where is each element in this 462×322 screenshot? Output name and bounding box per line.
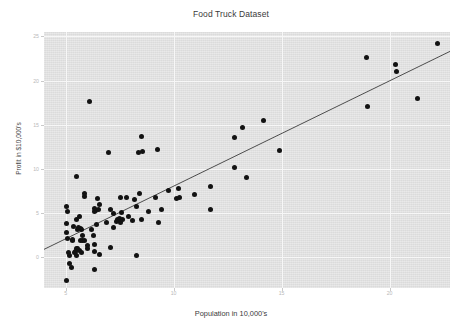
scatter-point (91, 233, 96, 238)
scatter-point (176, 186, 181, 191)
scatter-point (120, 217, 125, 222)
y-tick-label: 25 (26, 33, 39, 39)
scatter-point (74, 174, 79, 179)
gridline-y (44, 257, 450, 258)
scatter-point (415, 96, 420, 101)
scatter-point (140, 149, 145, 154)
scatter-point (139, 217, 144, 222)
y-tick-label: 0 (26, 254, 39, 260)
scatter-point (97, 252, 102, 257)
gridline-y (44, 81, 450, 82)
scatter-point (156, 220, 161, 225)
y-tick-label: 15 (26, 122, 39, 128)
scatter-point (97, 202, 102, 207)
scatter-point (111, 211, 116, 216)
scatter-point (111, 225, 116, 230)
scatter-point (177, 195, 182, 200)
scatter-point (146, 209, 151, 214)
gridline-x (282, 32, 283, 288)
scatter-point (104, 220, 109, 225)
gridline-x (390, 32, 391, 288)
scatter-point (87, 99, 92, 104)
scatter-point (130, 218, 135, 223)
x-axis-label: Population in 10,000's (0, 309, 462, 318)
scatter-point (208, 207, 213, 212)
scatter-point (134, 204, 139, 209)
chart-figure: Food Truck Dataset Profit in $10,000's 5… (0, 0, 462, 322)
scatter-point (82, 191, 87, 196)
scatter-point (70, 237, 75, 242)
gridline-y (44, 213, 450, 214)
scatter-point (108, 245, 113, 250)
scatter-point (67, 253, 72, 258)
scatter-point (365, 104, 370, 109)
scatter-point (166, 188, 171, 193)
scatter-point (64, 221, 69, 226)
scatter-point (69, 265, 74, 270)
y-tick-label: 5 (26, 210, 39, 216)
y-tickmark (41, 169, 44, 170)
scatter-point (240, 125, 245, 130)
x-tick-label: 10 (171, 290, 177, 296)
y-tickmark (41, 36, 44, 37)
scatter-point (192, 192, 197, 197)
scatter-point (244, 175, 249, 180)
y-tickmark (41, 125, 44, 126)
scatter-point (106, 150, 111, 155)
gridline-y (44, 36, 450, 37)
scatter-point (132, 197, 137, 202)
scatter-point (92, 267, 97, 272)
scatter-point (65, 209, 70, 214)
gridline-x (174, 32, 175, 288)
x-tick-label: 20 (387, 290, 393, 296)
scatter-point (89, 227, 94, 232)
scatter-point (435, 41, 440, 46)
scatter-point (64, 278, 69, 283)
scatter-point (261, 118, 266, 123)
gridline-y (44, 125, 450, 126)
scatter-point (153, 195, 158, 200)
scatter-point (118, 195, 123, 200)
y-tick-label: 20 (26, 78, 39, 84)
scatter-point (95, 196, 100, 201)
x-tick-label: 15 (279, 290, 285, 296)
scatter-point (77, 214, 82, 219)
y-tickmark (41, 257, 44, 258)
y-tick-label: 10 (26, 166, 39, 172)
scatter-point (79, 250, 84, 255)
scatter-point (393, 62, 398, 67)
scatter-point (92, 242, 97, 247)
scatter-point (73, 249, 78, 254)
scatter-point (85, 246, 90, 251)
y-axis-label: Profit in $10,000's (15, 94, 22, 204)
scatter-point (94, 222, 99, 227)
y-tickmark (41, 213, 44, 214)
scatter-point (159, 207, 164, 212)
scatter-point (208, 184, 213, 189)
plot-area (44, 32, 450, 288)
chart-title: Food Truck Dataset (0, 9, 462, 19)
scatter-point (139, 134, 144, 139)
gridline-y (44, 169, 450, 170)
scatter-point (80, 233, 85, 238)
scatter-point (124, 195, 129, 200)
scatter-point (64, 230, 69, 235)
scatter-point (364, 55, 369, 60)
scatter-point (137, 191, 142, 196)
scatter-point (394, 69, 399, 74)
scatter-point (232, 135, 237, 140)
x-tick-label: 5 (64, 290, 67, 296)
scatter-point (96, 207, 101, 212)
scatter-point (119, 210, 124, 215)
scatter-point (76, 225, 81, 230)
scatter-point (155, 147, 160, 152)
y-tickmark (41, 81, 44, 82)
